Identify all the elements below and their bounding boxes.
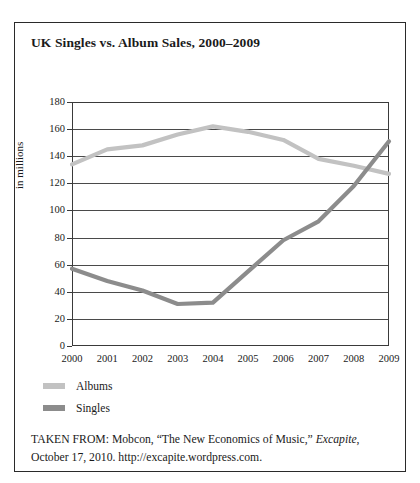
y-axis-tick-label: 20 [31, 314, 65, 325]
x-axis-tick-label: 2009 [369, 353, 409, 364]
figure-title: UK Singles vs. Album Sales, 2000–2009 [31, 35, 260, 51]
legend-swatch-albums [43, 383, 65, 389]
y-axis-tick-label: 100 [31, 205, 65, 216]
x-axis-tick-label: 2004 [193, 353, 233, 364]
caption-text-second-line: October 17, 2010. http://excapite.wordpr… [31, 451, 262, 464]
y-axis-label: in millions [13, 142, 25, 189]
series-line-singles [72, 141, 389, 304]
y-axis-tick-label: 40 [31, 287, 65, 298]
legend-label-albums: Albums [76, 380, 112, 392]
legend-item-albums: Albums [43, 375, 112, 397]
series-lines [72, 102, 389, 346]
y-axis-tick-label: 60 [31, 260, 65, 271]
caption-source-name: Excapite [316, 433, 357, 446]
y-axis-tick-mark [67, 346, 72, 347]
figure-caption: TAKEN FROM: Mobcon, “The New Economics o… [31, 431, 389, 466]
legend-swatch-singles [43, 405, 65, 411]
x-axis-tick-label: 2005 [228, 353, 268, 364]
caption-comma: , [357, 433, 360, 446]
x-axis-tick-label: 2007 [299, 353, 339, 364]
figure-container: UK Singles vs. Album Sales, 2000–2009 in… [14, 22, 406, 472]
y-axis-tick-label: 180 [31, 97, 65, 108]
legend-item-singles: Singles [43, 397, 112, 419]
legend-label-singles: Singles [76, 402, 110, 414]
x-axis-tick-label: 2006 [263, 353, 303, 364]
plot-area [72, 102, 389, 346]
x-axis-tick-label: 2003 [158, 353, 198, 364]
chart-legend: AlbumsSingles [43, 375, 112, 419]
caption-text-leading: TAKEN FROM: Mobcon, “The New Economics o… [31, 433, 316, 446]
y-axis-tick-label: 160 [31, 124, 65, 135]
x-axis-tick-label: 2008 [334, 353, 374, 364]
y-axis-tick-label: 0 [31, 341, 65, 352]
y-axis-tick-label: 140 [31, 151, 65, 162]
x-axis-tick-label: 2000 [52, 353, 92, 364]
y-axis-tick-label: 120 [31, 178, 65, 189]
x-axis-tick-label: 2001 [87, 353, 127, 364]
chart-region: in millions 020406080100120140160180 200… [15, 51, 404, 341]
y-axis-tick-label: 80 [31, 233, 65, 244]
x-axis-tick-label: 2002 [122, 353, 162, 364]
series-line-albums [72, 126, 389, 173]
